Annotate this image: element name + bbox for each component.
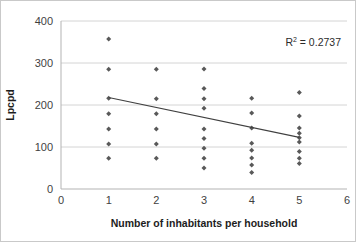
x-tick-label: 0: [58, 194, 64, 206]
data-point: [249, 155, 254, 160]
data-point: [202, 66, 207, 71]
data-point: [297, 113, 302, 118]
data-point: [106, 126, 111, 131]
data-point: [249, 170, 254, 175]
data-point: [297, 156, 302, 161]
data-point: [202, 86, 207, 91]
data-point: [249, 163, 254, 168]
data-point: [154, 142, 159, 147]
y-tick-label: 200: [35, 99, 53, 111]
data-point: [202, 156, 207, 161]
data-point: [106, 156, 111, 161]
data-point: [202, 106, 207, 111]
data-point: [154, 67, 159, 72]
scatter-chart: 400 300 200 100 0 0 1 2 3 4 5 6 Number o…: [0, 0, 356, 242]
r-squared-annotation: R2 = 0.2737: [285, 36, 341, 48]
data-point: [297, 90, 302, 95]
x-tick-label: 5: [296, 194, 302, 206]
data-point: [249, 148, 254, 153]
data-points-layer: [106, 37, 302, 176]
data-point: [249, 141, 254, 146]
data-point: [297, 126, 302, 131]
data-point: [297, 131, 302, 136]
data-point: [154, 111, 159, 116]
y-tick-label: 300: [35, 57, 53, 69]
data-point: [106, 142, 111, 147]
y-tick-label: 400: [35, 15, 53, 27]
data-point: [297, 161, 302, 166]
data-point: [202, 166, 207, 171]
data-point: [202, 136, 207, 141]
chart-canvas: 400 300 200 100 0 0 1 2 3 4 5 6 Number o…: [1, 1, 356, 242]
data-point: [106, 37, 111, 42]
y-tick-label: 0: [47, 183, 53, 195]
data-point: [297, 149, 302, 154]
r-squared-suffix: = 0.2737: [297, 36, 341, 48]
x-axis-tick-labels: 0 1 2 3 4 5 6: [58, 194, 350, 206]
x-tick-label: 4: [249, 194, 255, 206]
x-tick-label: 1: [106, 194, 112, 206]
y-tick-label: 100: [35, 141, 53, 153]
data-point: [249, 110, 254, 115]
data-point: [106, 111, 111, 116]
data-point: [154, 96, 159, 101]
data-point: [154, 156, 159, 161]
x-tick-label: 6: [344, 194, 350, 206]
x-tick-label: 3: [201, 194, 207, 206]
data-point: [154, 126, 159, 131]
y-axis-tick-labels: 400 300 200 100 0: [35, 15, 53, 195]
y-axis-title: Lpcpd: [4, 89, 16, 121]
data-point: [202, 126, 207, 131]
data-point: [249, 96, 254, 101]
data-point: [106, 67, 111, 72]
data-point: [297, 139, 302, 144]
data-point: [202, 96, 207, 101]
x-axis-title: Number of inhabitants per household: [111, 217, 298, 229]
x-tick-label: 2: [153, 194, 159, 206]
